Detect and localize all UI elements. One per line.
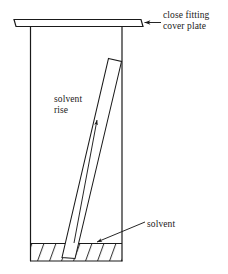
label-solvent-rise: solvent rise <box>54 94 82 116</box>
label-close-fitting-cover-plate: close fitting cover plate <box>163 10 209 32</box>
figure-root: close fitting cover plate solvent rise s… <box>0 0 228 274</box>
solvent-label-line-1: solvent <box>147 219 175 230</box>
label-solvent: solvent <box>147 219 175 230</box>
solvent-rise-label-line-2: rise <box>54 105 82 116</box>
figure-drawing <box>0 0 228 274</box>
solvent-leader <box>97 222 145 242</box>
tilted-tlc-plate <box>62 59 122 259</box>
close-fitting-cover-plate <box>14 20 143 27</box>
solvent-rise-label-line-1: solvent <box>54 94 82 105</box>
cover-plate-label-line-2: cover plate <box>163 21 209 32</box>
cover-plate-label-line-1: close fitting <box>163 10 209 21</box>
